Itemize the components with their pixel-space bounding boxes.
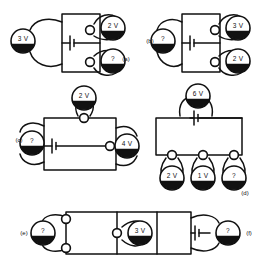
panel-label-d: (d) — [241, 190, 248, 196]
meter-f-right — [216, 221, 240, 245]
meter-c-left — [20, 131, 44, 155]
meter-b-top-right — [226, 16, 250, 40]
meter-c-top — [72, 86, 96, 110]
circuit-diagram-canvas — [0, 0, 264, 268]
meter-c-right — [115, 134, 139, 158]
meter-a-left — [11, 29, 35, 53]
meter-d-bottom-middle — [191, 166, 215, 190]
meter-d-bottom-right — [222, 166, 246, 190]
meter-a-top-right — [101, 16, 125, 40]
meter-e-left — [31, 221, 55, 245]
meter-b-bottom-right — [226, 49, 250, 73]
panel-label-b: (b) — [146, 38, 153, 44]
panel-label-a: (a) — [122, 56, 129, 62]
panel-label-c: (c) — [16, 137, 23, 143]
panel-label-e: (e) — [20, 230, 27, 236]
meter-d-bottom-left — [160, 166, 184, 190]
meter-b-left — [151, 29, 175, 53]
circuit-worksheet: 3 V 2 V ? ? 3 V 2 V 2 V ? 4 V 6 V 2 V 1 … — [0, 0, 264, 268]
meter-d-top — [186, 84, 210, 108]
meter-e-middle — [128, 221, 152, 245]
panel-label-f: (f) — [246, 230, 252, 236]
